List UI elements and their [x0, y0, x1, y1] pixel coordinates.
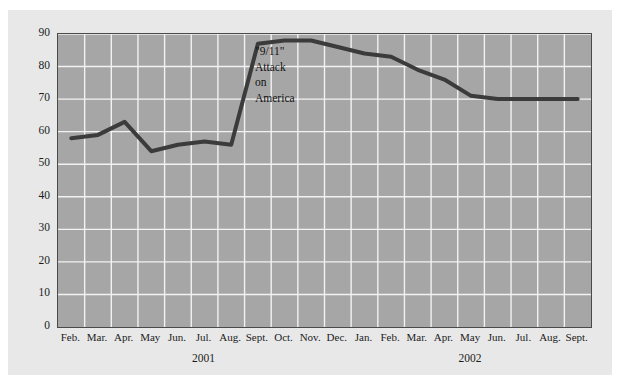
y-axis-tick-label: 60: [4, 125, 50, 137]
annotation-line: Attack: [255, 60, 295, 76]
x-axis-tick-label: Jul.: [196, 332, 212, 343]
x-axis-tick-label: Oct.: [274, 332, 293, 343]
x-axis-tick-label: Jul.: [516, 332, 532, 343]
y-axis-tick-label: 10: [4, 288, 50, 300]
y-axis-tick-label: 80: [4, 60, 50, 72]
annotation-line: "9/11": [255, 44, 295, 60]
y-axis-tick-label: 20: [4, 255, 50, 267]
x-axis-tick-label: Aug.: [219, 332, 241, 343]
x-axis-tick-label: Jun.: [488, 332, 506, 343]
event-annotation: "9/11"AttackonAmerica: [255, 44, 295, 106]
annotation-line: America: [255, 91, 295, 107]
y-axis-tick-label: 70: [4, 92, 50, 104]
x-axis-tick-label: Feb.: [381, 332, 400, 343]
x-axis-year-groups: 20012002: [57, 353, 590, 371]
y-axis-tick-label: 50: [4, 157, 50, 169]
y-axis: 9080706050403020100: [0, 33, 50, 326]
x-axis-tick-label: Sept.: [566, 332, 588, 343]
x-axis-tick-label: May: [460, 332, 480, 343]
x-axis-tick-label: Apr.: [114, 332, 133, 343]
chart-figure: 9080706050403020100 Feb.Mar.Apr.MayJun.J…: [0, 0, 620, 391]
y-axis-tick-label: 90: [4, 27, 50, 39]
x-axis-tick-label: Nov.: [300, 332, 321, 343]
plot-svg: [58, 34, 591, 327]
x-axis-tick-label: Aug.: [539, 332, 561, 343]
x-axis-tick-label: Mar.: [407, 332, 427, 343]
y-axis-tick-label: 0: [4, 320, 50, 332]
x-axis-tick-label: Jan.: [355, 332, 372, 343]
x-axis-year-label: 2002: [459, 353, 482, 365]
annotation-line: on: [255, 75, 295, 91]
x-axis: Feb.Mar.Apr.MayJun.Jul.Aug.Sept.Oct.Nov.…: [57, 332, 590, 350]
x-axis-tick-label: May: [140, 332, 160, 343]
x-axis-tick-label: Dec.: [327, 332, 347, 343]
y-axis-tick-label: 40: [4, 190, 50, 202]
y-axis-tick-label: 30: [4, 223, 50, 235]
x-axis-tick-label: Feb.: [61, 332, 80, 343]
x-axis-tick-label: Mar.: [87, 332, 107, 343]
vertical-gridlines: [85, 34, 565, 327]
x-axis-tick-label: Jun.: [168, 332, 186, 343]
x-axis-year-label: 2001: [192, 353, 215, 365]
x-axis-tick-label: Apr.: [434, 332, 453, 343]
plot-area: [57, 33, 592, 328]
x-axis-tick-label: Sept.: [246, 332, 268, 343]
